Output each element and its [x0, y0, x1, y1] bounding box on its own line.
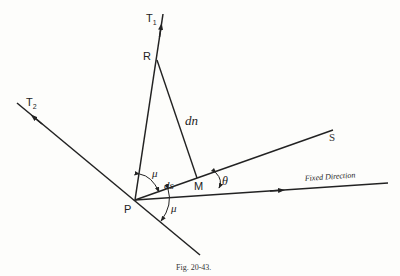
label-m: M [194, 180, 203, 192]
label-t2: T2 [26, 96, 37, 110]
label-theta: θ [222, 174, 228, 188]
arc-theta [216, 173, 220, 188]
figure-caption: Fig. 20-43. [176, 263, 211, 272]
label-mu-lower: μ [170, 202, 177, 214]
label-t1: T1 [146, 12, 157, 26]
line-pt1 [135, 14, 163, 200]
label-fixed-direction: Fixed Direction [304, 170, 356, 183]
diagram-canvas: T1 T2 R P M S dn ds μ μ θ Fixed Directio… [0, 0, 400, 276]
arc-mu-lower [161, 189, 169, 221]
label-s: S [329, 131, 335, 143]
figure-20-43: T1 T2 R P M S dn ds μ μ θ Fixed Directio… [0, 0, 400, 276]
label-r: R [143, 50, 151, 62]
label-ds: ds [164, 179, 174, 191]
label-dn: dn [185, 113, 198, 128]
label-p: P [124, 203, 131, 215]
label-mu-upper: μ [151, 167, 158, 179]
